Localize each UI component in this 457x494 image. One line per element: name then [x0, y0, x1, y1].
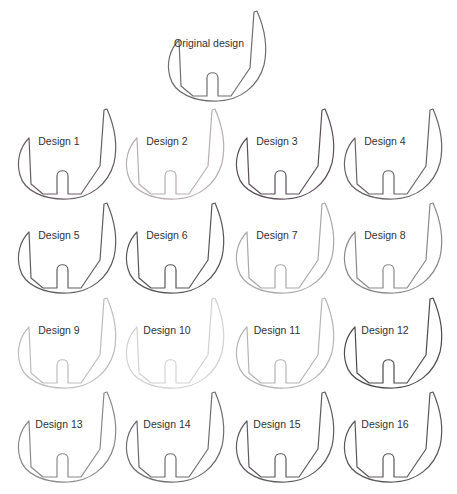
- design-label: Design 11: [228, 324, 340, 336]
- design-cell-4: Design 4: [336, 105, 448, 201]
- design-label: Design 15: [228, 418, 340, 430]
- bracket-shape-icon: [228, 388, 340, 484]
- bracket-shape-icon: [336, 388, 448, 484]
- bracket-shape-icon: [228, 294, 340, 390]
- design-label: Design 13: [10, 418, 122, 430]
- design-cell-12: Design 12: [336, 294, 448, 390]
- design-cell-9: Design 9: [10, 294, 122, 390]
- design-label: Design 12: [336, 324, 448, 336]
- bracket-shape-icon: [10, 105, 122, 201]
- design-cell-16: Design 16: [336, 388, 448, 484]
- design-label: Design 9: [10, 324, 122, 336]
- design-label: Design 8: [336, 229, 448, 241]
- design-label: Design 1: [10, 135, 122, 147]
- design-label: Design 10: [118, 324, 230, 336]
- design-label: Design 7: [228, 229, 340, 241]
- design-label: Design 16: [336, 418, 448, 430]
- bracket-shape-icon: [118, 199, 230, 295]
- bracket-shape-icon: [228, 105, 340, 201]
- bracket-shape-icon: [336, 199, 448, 295]
- bracket-shape-icon: [336, 105, 448, 201]
- bracket-shape-icon: [10, 388, 122, 484]
- design-label: Design 3: [228, 135, 340, 147]
- design-cell-14: Design 14: [118, 388, 230, 484]
- bracket-shape-icon: [160, 7, 272, 103]
- bracket-shape-icon: [10, 294, 122, 390]
- bracket-shape-icon: [118, 294, 230, 390]
- design-cell-6: Design 6: [118, 199, 230, 295]
- design-cell-2: Design 2: [118, 105, 230, 201]
- bracket-shape-icon: [10, 199, 122, 295]
- bracket-shape-icon: [228, 199, 340, 295]
- design-label: Design 2: [118, 135, 230, 147]
- bracket-shape-icon: [118, 105, 230, 201]
- bracket-shape-icon: [336, 294, 448, 390]
- design-cell-1: Design 1: [10, 105, 122, 201]
- original-design-cell: Original design: [160, 7, 272, 103]
- design-label: Design 4: [336, 135, 448, 147]
- design-label: Design 6: [118, 229, 230, 241]
- design-cell-15: Design 15: [228, 388, 340, 484]
- design-cell-5: Design 5: [10, 199, 122, 295]
- design-label: Design 5: [10, 229, 122, 241]
- design-cell-11: Design 11: [228, 294, 340, 390]
- design-label: Design 14: [118, 418, 230, 430]
- bracket-shape-icon: [118, 388, 230, 484]
- design-label: Original design: [160, 37, 272, 49]
- design-cell-7: Design 7: [228, 199, 340, 295]
- design-cell-10: Design 10: [118, 294, 230, 390]
- design-cell-13: Design 13: [10, 388, 122, 484]
- design-cell-3: Design 3: [228, 105, 340, 201]
- design-cell-8: Design 8: [336, 199, 448, 295]
